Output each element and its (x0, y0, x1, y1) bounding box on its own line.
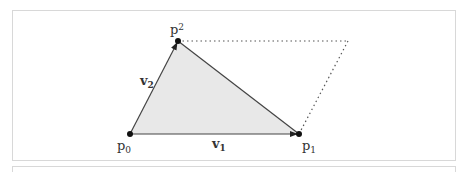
label-v1: v1 (211, 136, 226, 153)
label-v2: v2 (139, 73, 154, 90)
label-p0: p0 (117, 138, 131, 155)
triangle-diagram: p0 p1 p2 v2 v1 (0, 0, 468, 172)
point-p1 (296, 131, 302, 137)
point-p2 (175, 38, 181, 44)
label-p1: p1 (302, 138, 316, 155)
triangle-fill (130, 41, 299, 134)
dotted-right-edge (299, 41, 348, 134)
label-p2: p2 (170, 22, 184, 37)
point-p0 (127, 131, 133, 137)
